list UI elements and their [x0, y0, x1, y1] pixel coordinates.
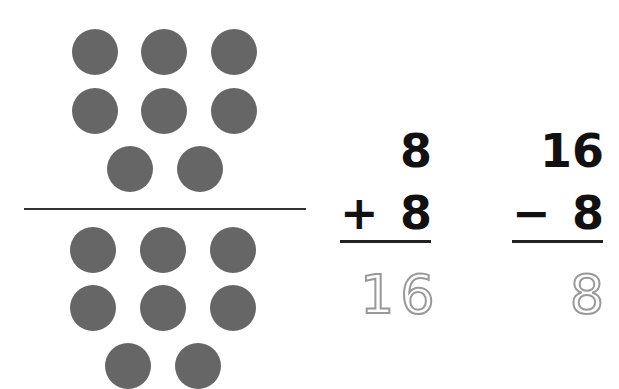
counter-dot — [175, 343, 221, 389]
addend-bottom: 8 — [380, 190, 432, 236]
addition-answer-trace: 16 — [360, 268, 436, 322]
subtrahend: 8 — [550, 190, 604, 236]
counter-dot — [140, 227, 186, 273]
counter-dot — [177, 146, 223, 192]
group-divider-line — [24, 208, 306, 210]
counter-dot — [141, 29, 187, 75]
subtraction-underline — [512, 240, 603, 243]
plus-operator: + — [340, 190, 379, 236]
addend-top: 8 — [340, 128, 432, 174]
counter-dot — [211, 29, 257, 75]
counter-dot — [105, 343, 151, 389]
counter-dot — [107, 146, 153, 192]
counter-dot — [140, 285, 186, 331]
counter-dot — [210, 285, 256, 331]
counter-dot — [70, 285, 116, 331]
addition-underline — [340, 240, 431, 243]
counter-dot — [211, 88, 257, 134]
counter-dot — [70, 227, 116, 273]
counter-dot — [210, 227, 256, 273]
counter-dot — [141, 88, 187, 134]
minus-operator: − — [512, 190, 551, 236]
subtraction-answer-trace: 8 — [540, 268, 604, 322]
minuend: 16 — [510, 128, 604, 174]
counter-dot — [72, 29, 118, 75]
counter-dot — [72, 88, 118, 134]
